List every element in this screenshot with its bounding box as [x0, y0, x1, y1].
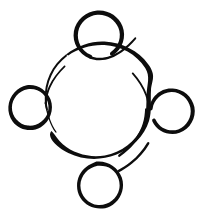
logo-canvas: Four-node ring network logo An abstract … — [0, 0, 200, 209]
logo-artwork: Four-node ring network logo An abstract … — [0, 0, 200, 209]
logo-background — [0, 0, 200, 209]
